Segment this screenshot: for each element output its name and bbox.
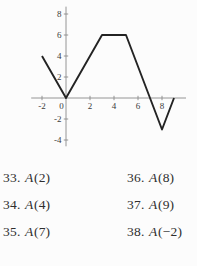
textbook-figure: -2024688642-2-4 33.A(2) 34.A(4) 35.A(7) … — [0, 0, 197, 266]
exercise-expression: A(2) — [25, 170, 50, 185]
function-curve — [42, 35, 174, 130]
exercise-item-33: 33.A(2) — [3, 170, 50, 186]
function-argument: (9) — [158, 197, 174, 212]
exercise-column-left: 33.A(2) 34.A(4) 35.A(7) — [3, 170, 50, 240]
function-name: A — [149, 224, 158, 239]
y-tick-label: -4 — [54, 135, 62, 145]
function-argument: (7) — [34, 224, 50, 239]
exercise-item-37: 37.A(9) — [127, 197, 182, 213]
x-tick-label: 0 — [59, 101, 64, 111]
exercise-item-36: 36.A(8) — [127, 170, 182, 186]
y-tick-label: -2 — [54, 114, 62, 124]
function-graph-svg: -2024688642-2-4 — [0, 0, 197, 160]
x-tick-label: 6 — [136, 101, 141, 111]
exercise-number: 38. — [127, 224, 149, 240]
exercise-column-right: 36.A(8) 37.A(9) 38.A(−2) — [127, 170, 182, 240]
exercise-item-34: 34.A(4) — [3, 197, 50, 213]
function-argument: (4) — [34, 197, 50, 212]
y-tick-label: 2 — [57, 72, 62, 82]
function-argument: (2) — [34, 170, 50, 185]
y-tick-label: 6 — [57, 30, 62, 40]
exercise-number: 36. — [127, 170, 149, 186]
exercise-item-35: 35.A(7) — [3, 224, 50, 240]
exercise-expression: A(4) — [25, 197, 50, 212]
exercise-number: 35. — [3, 224, 25, 240]
exercise-number: 33. — [3, 170, 25, 186]
function-argument: (−2) — [158, 224, 182, 239]
exercise-item-38: 38.A(−2) — [127, 224, 182, 240]
x-tick-label: 2 — [88, 101, 93, 111]
exercise-list: 33.A(2) 34.A(4) 35.A(7) 36.A(8) 37.A(9) … — [0, 170, 197, 260]
function-name: A — [25, 224, 34, 239]
exercise-expression: A(−2) — [149, 224, 182, 239]
function-name: A — [149, 170, 158, 185]
x-tick-label: -2 — [38, 101, 46, 111]
x-tick-label: 4 — [112, 101, 117, 111]
y-tick-label: 4 — [57, 51, 62, 61]
function-argument: (8) — [158, 170, 174, 185]
function-name: A — [25, 197, 34, 212]
x-tick-label: 8 — [160, 101, 165, 111]
exercise-number: 37. — [127, 197, 149, 213]
function-name: A — [25, 170, 34, 185]
exercise-number: 34. — [3, 197, 25, 213]
function-graph: -2024688642-2-4 — [0, 0, 197, 160]
exercise-expression: A(8) — [149, 170, 174, 185]
exercise-expression: A(9) — [149, 197, 174, 212]
y-tick-label: 8 — [57, 9, 62, 19]
exercise-expression: A(7) — [25, 224, 50, 239]
function-name: A — [149, 197, 158, 212]
